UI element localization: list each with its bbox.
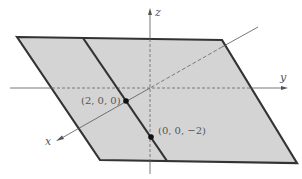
plane-diagram: (2, 0, 0) (0, 0, −2) z y x [0,0,302,179]
point-label-0-0-neg2: (0, 0, −2) [158,125,206,136]
point-0-0-neg2 [148,134,154,140]
plane [17,37,297,163]
x-axis-label: x [45,135,52,148]
point-label-2-0-0: (2, 0, 0) [81,95,121,106]
diagram-canvas: (2, 0, 0) (0, 0, −2) z y x [0,0,302,179]
point-2-0-0 [123,98,129,104]
y-axis-arrow-icon [281,86,288,90]
x-axis-arrow-icon [56,136,64,142]
y-axis-label: y [279,71,287,84]
z-axis-arrow-icon [148,8,152,15]
x-axis-upper [222,27,258,47]
z-axis-label: z [154,6,161,19]
